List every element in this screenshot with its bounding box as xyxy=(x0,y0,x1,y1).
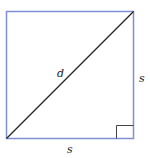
diagonal-label: d xyxy=(57,67,64,80)
bottom-side-label: s xyxy=(67,143,73,156)
right-angle-marker xyxy=(117,126,134,139)
diagonal-line xyxy=(7,12,134,139)
right-side-label: s xyxy=(139,72,145,85)
square-diagonal-diagram: d s s xyxy=(0,0,150,158)
